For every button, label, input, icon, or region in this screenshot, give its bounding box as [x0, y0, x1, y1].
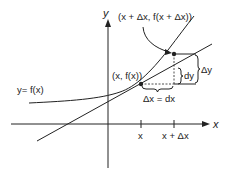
base-point-label: (x, f(x)) — [112, 70, 142, 81]
dx-label: Δx = dx — [143, 93, 175, 104]
tangent-line — [37, 44, 212, 141]
dy-label: dy — [184, 70, 194, 81]
delta-y-brace — [195, 55, 200, 83]
tick-label-x-plus-dx: x + Δx — [162, 130, 189, 141]
offset-pointer-arrow — [143, 27, 169, 52]
offset-point-label: (x + Δx, f(x + Δx)) — [118, 11, 192, 22]
dy-brace — [178, 68, 183, 84]
curve-label: y= f(x) — [17, 84, 44, 95]
delta-y-label: Δy — [201, 64, 212, 75]
differential-diagram: x y (x + Δx, f(x + Δx)) (x, f(x)) y= f(x… — [0, 0, 230, 179]
dx-brace — [142, 86, 173, 92]
function-curve — [29, 16, 194, 103]
y-axis-label: y — [102, 7, 110, 19]
x-axis-label: x — [212, 118, 219, 130]
tick-label-x: x — [138, 130, 143, 141]
y-axis-arrowhead — [105, 19, 111, 27]
x-axis-arrowhead — [202, 121, 210, 127]
